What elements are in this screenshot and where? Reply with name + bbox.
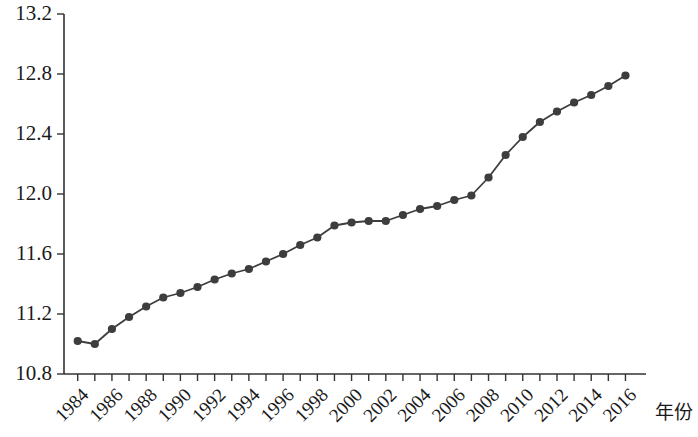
data-point (519, 133, 527, 141)
x-tick-label: 2016 (599, 384, 641, 426)
data-point (330, 221, 338, 229)
data-point (347, 218, 355, 226)
x-tick-label: 2014 (564, 384, 606, 426)
data-point (211, 275, 219, 283)
x-tick-label: 1988 (119, 384, 161, 426)
data-point (382, 217, 390, 225)
x-axis-ticks (78, 374, 626, 381)
x-tick-label: 1994 (222, 384, 264, 426)
y-tick-label: 12.4 (15, 121, 52, 145)
data-point (570, 98, 578, 106)
data-point (296, 241, 304, 249)
data-point (484, 173, 492, 181)
data-point (536, 118, 544, 126)
data-point (74, 337, 82, 345)
data-point (228, 269, 236, 277)
data-point (365, 217, 373, 225)
x-tick-label: 2008 (462, 384, 504, 426)
x-tick-label: 1990 (154, 384, 196, 426)
chart-page: 10.811.211.612.012.412.813.2 19841986198… (0, 0, 698, 437)
data-point (245, 265, 253, 273)
x-tick-label: 1986 (85, 384, 127, 426)
x-tick-label: 2000 (325, 384, 367, 426)
data-point (416, 205, 424, 213)
data-point (433, 202, 441, 210)
data-point (142, 302, 150, 310)
x-axis-title: 年份 (655, 402, 693, 423)
data-point (502, 151, 510, 159)
data-point (159, 293, 167, 301)
data-point (176, 289, 184, 297)
data-point (467, 191, 475, 199)
y-tick-label: 13.2 (15, 1, 52, 25)
x-tick-label: 2012 (530, 384, 572, 426)
data-point (450, 196, 458, 204)
x-tick-label: 1998 (290, 384, 332, 426)
x-tick-label: 1996 (256, 384, 298, 426)
data-point (91, 340, 99, 348)
x-tick-label: 1992 (188, 384, 230, 426)
data-line (78, 76, 626, 345)
y-tick-label: 11.2 (16, 301, 52, 325)
data-point (587, 91, 595, 99)
line-chart: 10.811.211.612.012.412.813.2 19841986198… (0, 0, 698, 437)
data-point (313, 233, 321, 241)
y-axis-ticks (57, 14, 64, 374)
x-tick-label: 2004 (393, 384, 435, 426)
x-tick-label: 2002 (359, 384, 401, 426)
data-point (193, 283, 201, 291)
y-tick-label: 12.0 (15, 181, 52, 205)
y-tick-label: 12.8 (15, 61, 52, 85)
data-point (262, 257, 270, 265)
data-point (108, 325, 116, 333)
x-tick-label: 2006 (427, 384, 469, 426)
data-point (553, 107, 561, 115)
y-tick-label: 11.6 (16, 241, 52, 265)
x-tick-label: 1984 (51, 384, 93, 426)
data-point (125, 313, 133, 321)
data-point (279, 250, 287, 258)
x-tick-label: 2010 (496, 384, 538, 426)
data-markers (74, 71, 630, 348)
data-point (604, 82, 612, 90)
data-point (399, 211, 407, 219)
y-axis-labels: 10.811.211.612.012.412.813.2 (15, 1, 52, 385)
y-tick-label: 10.8 (15, 361, 52, 385)
data-point (621, 71, 629, 79)
x-axis-labels: 1984198619881990199219941996199820002002… (51, 384, 640, 426)
